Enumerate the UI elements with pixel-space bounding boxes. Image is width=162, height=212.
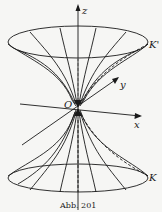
x-axis-label: x [134,119,140,130]
lower-ruling [79,112,96,192]
origin-label: O [64,99,72,110]
z-axis-label: z [81,5,88,16]
y-axis-label: y [119,79,126,90]
figure-caption: Abb. 201 [59,201,96,210]
lower-ruling [60,112,77,192]
figure-diagram: z y x O K' K Abb. 201 [0,0,162,212]
y-arrow-icon [112,77,119,84]
z-arrow-icon [76,4,81,11]
lower-curve-label: K [148,172,157,183]
upper-curve-label: K' [148,39,159,50]
lower-ruling [18,112,75,184]
